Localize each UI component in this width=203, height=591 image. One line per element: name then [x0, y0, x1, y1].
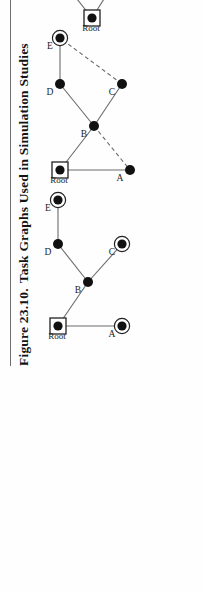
graph-node-label: D: [45, 247, 52, 257]
graph-node-root: Root: [50, 162, 68, 185]
graph-edge-bfs: [58, 244, 88, 282]
graph-node-b: B: [75, 277, 93, 295]
graph-node-e: E: [45, 192, 66, 213]
graph-node-label: E: [47, 41, 53, 51]
graph-edge-bfs: [60, 84, 94, 126]
specialized-node-dot: [55, 79, 65, 89]
graph-node-label: C: [109, 87, 115, 97]
graph-node-label: C: [109, 247, 115, 257]
figure-page: Figure 23.10.Task Graphs Used in Simulat…: [0, 0, 203, 591]
caption-text: Task Graphs Used in Simulation Studies: [16, 43, 31, 283]
graph-node-label: Root: [82, 23, 100, 33]
graph-node-c: C: [109, 236, 130, 257]
graph-node-label: E: [45, 203, 51, 213]
figure-area: Figure 23.10.Task Graphs Used in Simulat…: [0, 0, 203, 388]
graph-node-label: B: [75, 285, 81, 295]
specialized-node-dot: [55, 33, 64, 42]
specialized-node-dot: [53, 195, 62, 204]
graph-node-label: Root: [50, 175, 68, 185]
graph-node-label: A: [117, 173, 124, 183]
graph-edge-nonbfs: [94, 126, 130, 170]
graph-node-e: E: [47, 30, 68, 51]
graph-c-canvas: RootABCDEFGH: [30, 0, 190, 32]
graph-node-root: Root: [82, 10, 100, 33]
specialized-node-dot: [55, 165, 64, 174]
graph-node-root: Root: [48, 318, 66, 341]
graph-a-canvas: RootABCDE: [30, 173, 190, 348]
graph-node-a: A: [109, 318, 130, 339]
graph-node-b: B: [81, 121, 99, 139]
graph-b: RootABCDE: [30, 8, 195, 188]
graph-node-a: A: [117, 165, 135, 183]
graph-node-label: B: [81, 129, 87, 139]
graph-a: RootABCDE: [30, 173, 195, 348]
graph-b-canvas: RootABCDE: [30, 8, 190, 188]
specialized-node-dot: [87, 13, 96, 22]
caption-rule: [10, 0, 11, 366]
rotated-page-sheet: Figure 23.10.Task Graphs Used in Simulat…: [0, 0, 203, 388]
graph-edge-nonbfs: [60, 38, 122, 84]
specialized-node-dot: [117, 321, 126, 330]
graph-node-d: D: [47, 79, 65, 97]
graph-c: RootABCDEFGH: [30, 0, 195, 32]
specialized-node-dot: [117, 79, 127, 89]
graph-node-c: C: [109, 79, 127, 97]
caption-number: Figure 23.10.: [16, 288, 31, 366]
graph-node-label: D: [47, 87, 54, 97]
specialized-node-dot: [89, 121, 99, 131]
specialized-node-dot: [117, 239, 126, 248]
graph-node-d: D: [45, 239, 63, 257]
graph-node-label: A: [109, 329, 116, 339]
graph-node-label: Root: [48, 331, 66, 341]
specialized-node-dot: [53, 239, 63, 249]
specialized-node-dot: [53, 321, 62, 330]
specialized-node-dot: [125, 165, 135, 175]
specialized-node-dot: [83, 277, 93, 287]
